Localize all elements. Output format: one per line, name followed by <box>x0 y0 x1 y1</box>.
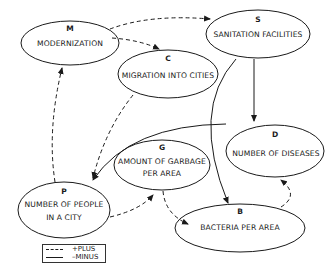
node-p-letter: P <box>54 187 74 196</box>
edge-p-to-m <box>52 68 62 182</box>
edge-p-to-g <box>110 195 153 217</box>
edge-g-to-b <box>163 191 188 224</box>
legend-row-plus: +PLUS <box>45 245 103 253</box>
node-s-label: SANITATION FACILITIES <box>206 29 310 41</box>
legend-minus-label: –MINUS <box>72 253 98 261</box>
legend: +PLUS –MINUS <box>42 244 106 263</box>
edge-m-to-s <box>110 18 210 29</box>
solid-line-icon <box>46 257 63 258</box>
legend-row-minus: –MINUS <box>45 253 103 261</box>
node-p-label-line2: IN A CITY <box>14 212 114 224</box>
node-g-label-line1: AMOUNT OF GARBAGE <box>110 156 214 168</box>
node-g-label-line2: PER AREA <box>110 168 214 180</box>
node-b-label: BACTERIA PER AREA <box>176 222 304 234</box>
node-p-label-line1: NUMBER OF PEOPLE <box>14 199 114 211</box>
node-s-letter: S <box>248 15 268 24</box>
node-m-label: MODERNIZATION <box>20 38 120 50</box>
edge-b-to-d <box>281 180 291 207</box>
node-m-letter: M <box>60 24 80 33</box>
node-d-letter: D <box>265 130 285 139</box>
node-b-letter: B <box>230 207 250 216</box>
node-g-letter: G <box>152 143 172 152</box>
legend-plus-label: +PLUS <box>72 245 95 253</box>
node-c-letter: C <box>158 54 178 63</box>
node-d-label: NUMBER OF DISEASES <box>224 148 328 160</box>
dashed-line-icon <box>46 249 63 250</box>
node-c-label: MIGRATION INTO CITIES <box>116 70 220 82</box>
